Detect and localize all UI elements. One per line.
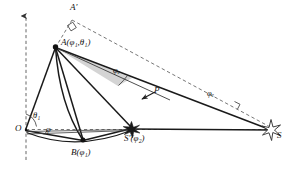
dot-b — [81, 138, 86, 143]
label-a: A(φ₁,θ₁) — [61, 38, 90, 47]
label-origin: O — [15, 124, 22, 133]
label-angle-theta1: θ₁ — [33, 111, 40, 120]
segment-a-to-s — [56, 48, 272, 131]
segment-sprime-to-s — [132, 129, 272, 130]
label-angle-phi-e-upper: φₑ — [113, 66, 120, 75]
figure-canvas — [0, 0, 289, 169]
dot-origin — [25, 129, 27, 131]
right-angle-square-marker — [68, 22, 77, 31]
dot-a — [53, 44, 58, 49]
label-angle-phi-e-lower: φₑ — [207, 89, 214, 98]
segment-a-to-origin — [26, 48, 56, 131]
right-angle-tick-marker — [235, 102, 241, 110]
label-a-prime: A′ — [70, 3, 77, 12]
label-s: S — [277, 131, 282, 140]
base-lines — [26, 129, 132, 141]
label-b: B(φ₁) — [71, 148, 91, 157]
shaded-angle-wedge — [56, 48, 133, 87]
label-angle-phi: φ — [46, 125, 51, 134]
label-s-prime: S′(φ₂) — [124, 134, 145, 143]
label-p: P — [154, 86, 160, 95]
geometry-figure: A′ A(φ₁,θ₁) O B(φ₁) S′(φ₂) S P θ₁ φ φₑ φ… — [0, 0, 289, 169]
